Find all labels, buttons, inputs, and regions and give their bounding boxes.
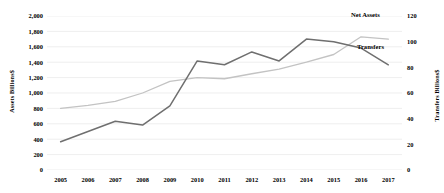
x-axis-tick: 2009	[155, 176, 185, 183]
y-axis-right-tick: 40	[407, 115, 433, 122]
y-axis-right-tick: 0	[407, 166, 433, 173]
line-chart: Assets Billions$ Transfers Billions$ 020…	[0, 0, 444, 193]
y-axis-left-title: Assets Billions$	[8, 64, 15, 120]
y-axis-right-tick: 100	[407, 38, 433, 45]
series-line-transfers	[61, 39, 389, 142]
y-axis-right-title: Transfers Billions$	[433, 65, 440, 127]
x-axis-tick: 2017	[373, 176, 403, 183]
plot-svg	[47, 16, 402, 170]
y-axis-left-tick: 400	[17, 136, 43, 143]
y-axis-left-tick: 2,000	[17, 12, 43, 19]
y-axis-right-tick: 120	[407, 12, 433, 19]
x-axis-tick: 2013	[264, 176, 294, 183]
y-axis-right-tick: 20	[407, 141, 433, 148]
y-axis-left-tick: 800	[17, 105, 43, 112]
y-axis-left-tick: 0	[17, 166, 43, 173]
x-axis-tick: 2016	[346, 176, 376, 183]
series-line-net-assets	[61, 37, 389, 109]
y-axis-left-tick: 1,800	[17, 28, 43, 35]
x-axis-tick: 2012	[237, 176, 267, 183]
gridlines	[47, 16, 402, 170]
x-axis-tick: 2006	[73, 176, 103, 183]
y-axis-left-tick: 1,000	[17, 89, 43, 96]
x-axis-tick: 2014	[291, 176, 321, 183]
y-axis-left-tick: 600	[17, 120, 43, 127]
y-axis-right-tick: 80	[407, 64, 433, 71]
y-axis-left-tick: 200	[17, 151, 43, 158]
x-axis-tick: 2007	[100, 176, 130, 183]
x-axis-tick: 2010	[182, 176, 212, 183]
series-lines	[61, 37, 389, 142]
x-axis-tick: 2011	[210, 176, 240, 183]
y-axis-left-tick: 1,200	[17, 74, 43, 81]
y-axis-left-tick: 1,400	[17, 59, 43, 66]
x-axis-tick: 2005	[46, 176, 76, 183]
series-label-net-assets: Net Assets	[351, 11, 380, 18]
y-axis-left-tick: 1,600	[17, 43, 43, 50]
y-axis-right-tick: 60	[407, 89, 433, 96]
x-axis-tick: 2015	[319, 176, 349, 183]
plot-area	[47, 16, 402, 170]
series-label-transfers: Transfers	[357, 43, 384, 50]
x-axis-tick: 2008	[128, 176, 158, 183]
